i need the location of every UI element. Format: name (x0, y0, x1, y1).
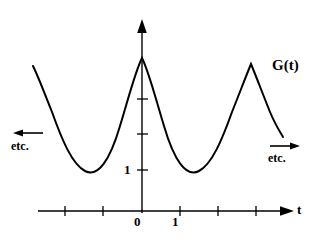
y-axis-arrowhead (137, 19, 147, 33)
curve-Gt (33, 58, 283, 172)
x-tick-label-1: 1 (172, 215, 179, 228)
etc-right-arrow-icon (270, 142, 300, 149)
etc-left-label: etc. (11, 140, 29, 152)
graph-figure: G(t) t 0 1 1 etc. etc. (0, 0, 325, 246)
x-tick-label-0: 0 (134, 215, 141, 228)
x-axis-label: t (297, 203, 301, 216)
curve-label-Gt: G(t) (272, 58, 299, 73)
y-tick-label-1: 1 (124, 163, 131, 176)
etc-left-arrow-icon (13, 129, 43, 136)
x-axis-arrowhead (280, 206, 294, 216)
plot-canvas (0, 0, 325, 246)
etc-right-label: etc. (268, 152, 286, 164)
